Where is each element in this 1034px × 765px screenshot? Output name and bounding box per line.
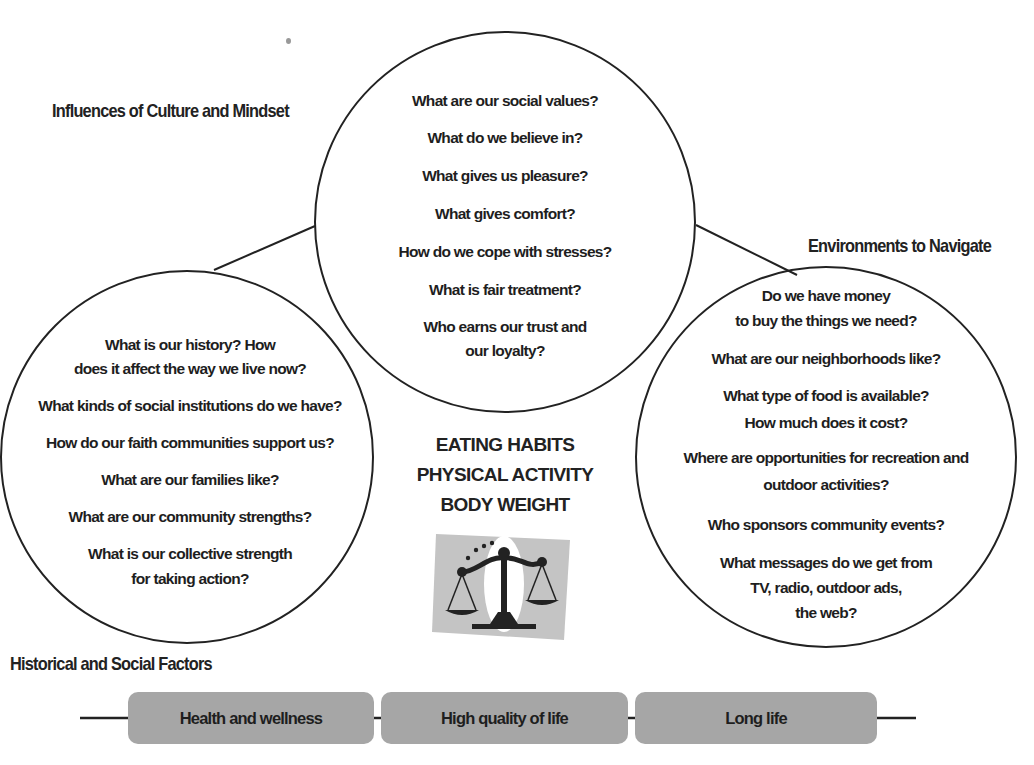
question: What are our social values? bbox=[355, 92, 655, 129]
question: What gives comfort? bbox=[355, 205, 655, 243]
question: Who sponsors community events? bbox=[671, 516, 981, 554]
question: What kinds of social institutions do we … bbox=[20, 397, 360, 434]
question: How do our faith communities support us? bbox=[20, 434, 360, 471]
question: Where are opportunities for recreation a… bbox=[671, 449, 981, 476]
center-line-eating: EATING HABITS bbox=[410, 430, 600, 460]
center-line-weight: BODY WEIGHT bbox=[410, 490, 600, 520]
culture-questions: What are our social values? What do we b… bbox=[355, 92, 655, 366]
question: Who earns our trust and bbox=[355, 318, 655, 342]
question: What type of food is available? bbox=[671, 387, 981, 414]
question: What is fair treatment? bbox=[355, 281, 655, 318]
question: How much does it cost? bbox=[671, 414, 981, 449]
question: How do we cope with stresses? bbox=[355, 243, 655, 281]
heading-historical-social: Historical and Social Factors bbox=[10, 653, 212, 675]
outcome-quality-of-life: High quality of life bbox=[381, 692, 628, 744]
outcome-label: Long life bbox=[725, 709, 787, 728]
question: our loyalty? bbox=[355, 342, 655, 366]
question: Do we have money bbox=[671, 287, 981, 312]
heading-culture-mindset: Influences of Culture and Mindset bbox=[52, 100, 289, 122]
question: does it affect the way we live now? bbox=[20, 360, 360, 397]
question: outdoor activities? bbox=[671, 476, 981, 516]
question: to buy the things we need? bbox=[671, 312, 981, 350]
question: What gives us pleasure? bbox=[355, 167, 655, 205]
question: TV, radio, outdoor ads, bbox=[671, 579, 981, 604]
diagram-canvas: Influences of Culture and Mindset Enviro… bbox=[0, 0, 1034, 765]
question: the web? bbox=[671, 604, 981, 628]
outcome-label: Health and wellness bbox=[180, 709, 323, 728]
speck-mark bbox=[286, 38, 291, 44]
environments-questions: Do we have money to buy the things we ne… bbox=[671, 287, 981, 628]
heading-environments: Environments to Navigate bbox=[808, 235, 991, 257]
balance-scale-icon bbox=[432, 528, 572, 644]
outcome-health-wellness: Health and wellness bbox=[128, 692, 374, 744]
question: What is our history? How bbox=[20, 336, 360, 360]
question: What is our collective strength bbox=[20, 545, 360, 570]
connector-line-right bbox=[696, 225, 797, 275]
question: What are our neighborhoods like? bbox=[671, 350, 981, 387]
historical-questions: What is our history? How does it affect … bbox=[20, 336, 360, 594]
question: What messages do we get from bbox=[671, 554, 981, 579]
outcome-long-life: Long life bbox=[635, 692, 877, 744]
outcome-label: High quality of life bbox=[441, 709, 568, 728]
question: What do we believe in? bbox=[355, 129, 655, 167]
center-focus-title: EATING HABITS PHYSICAL ACTIVITY BODY WEI… bbox=[410, 430, 600, 520]
question: What are our community strengths? bbox=[20, 508, 360, 545]
question: What are our families like? bbox=[20, 471, 360, 508]
center-line-activity: PHYSICAL ACTIVITY bbox=[410, 460, 600, 490]
question: for taking action? bbox=[20, 570, 360, 594]
connector-line-left bbox=[214, 226, 315, 270]
